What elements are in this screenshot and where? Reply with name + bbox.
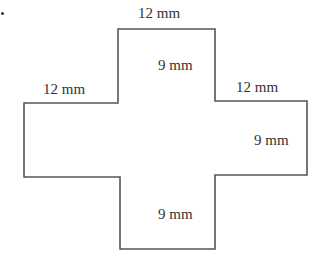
label-right-arm: 12 mm <box>236 80 278 95</box>
cross-shape <box>0 0 314 257</box>
label-left-arm: 12 mm <box>43 82 85 97</box>
label-bottom-arm: 9 mm <box>158 207 193 222</box>
label-right-side: 9 mm <box>254 133 289 148</box>
label-top: 12 mm <box>138 6 180 21</box>
label-inner-top: 9 mm <box>158 58 193 73</box>
